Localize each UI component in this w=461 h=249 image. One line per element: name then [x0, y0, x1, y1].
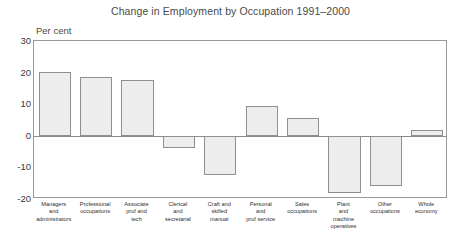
y-tick-label: 30 — [3, 35, 31, 46]
bar — [246, 106, 278, 136]
bar — [163, 136, 195, 149]
x-category-label: Managersandadministrators — [33, 201, 74, 223]
y-tick-label: 0 — [3, 129, 31, 140]
bar — [287, 118, 319, 135]
x-category-label: Personalandprof service — [240, 201, 281, 223]
x-category-label: Wholeeconomy — [406, 201, 447, 216]
y-axis-unit-label: Per cent — [36, 25, 71, 36]
bar — [370, 136, 402, 187]
y-tick-label: -20 — [3, 193, 31, 204]
x-category-label: Salesoccupations — [281, 201, 322, 216]
x-category-label: Plantandmachineoperatives — [323, 201, 364, 231]
x-category-label: Clericalandsecretarial — [157, 201, 198, 223]
x-category-label: Otheroccupations — [364, 201, 405, 216]
y-axis-tick-labels: 3020100-10-20 — [0, 40, 31, 198]
bar — [204, 136, 236, 176]
y-tick-label: 20 — [3, 66, 31, 77]
bar — [121, 80, 153, 136]
employment-change-bar-chart: Change in Employment by Occupation 1991–… — [0, 0, 461, 249]
x-axis-category-labels: ManagersandadministratorsProfessionalocc… — [33, 201, 447, 247]
x-category-label: Craft andskilledmanual — [199, 201, 240, 223]
x-category-label: Professionaloccupations — [74, 201, 115, 216]
y-tick-label: -10 — [3, 161, 31, 172]
bar — [80, 77, 112, 136]
x-category-label: Associateprof andtech — [116, 201, 157, 223]
y-tick-label: 10 — [3, 98, 31, 109]
plot-area — [33, 40, 447, 198]
bar — [411, 130, 443, 136]
chart-title: Change in Employment by Occupation 1991–… — [0, 5, 461, 17]
bar — [39, 72, 71, 136]
bar — [328, 136, 360, 193]
